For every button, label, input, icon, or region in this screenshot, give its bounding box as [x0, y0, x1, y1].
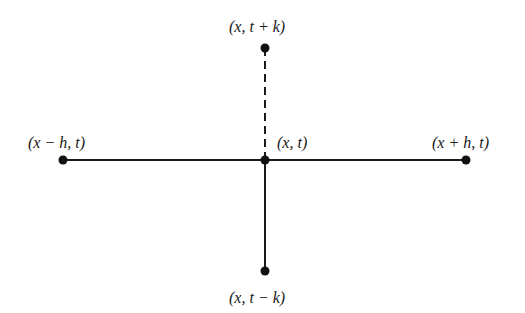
- node-center-dot: [261, 156, 270, 165]
- stencil-diagram: (x, t + k) (x − h, t) (x, t) (x + h, t) …: [0, 0, 525, 313]
- stencil-graphic: [0, 0, 525, 313]
- node-left-dot: [59, 156, 68, 165]
- label-bottom-node: (x, t − k): [229, 290, 285, 306]
- node-right-dot: [462, 156, 471, 165]
- label-top-node: (x, t + k): [229, 19, 285, 35]
- label-center-node: (x, t): [277, 135, 307, 151]
- label-left-node: (x − h, t): [28, 135, 85, 151]
- node-top-dot: [261, 44, 270, 53]
- node-bottom-dot: [261, 267, 270, 276]
- label-right-node: (x + h, t): [432, 135, 489, 151]
